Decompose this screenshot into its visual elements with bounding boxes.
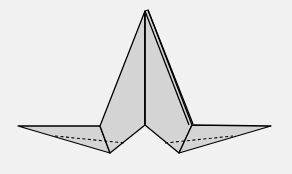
diagram-canvas — [0, 0, 292, 174]
origami-diagram — [0, 0, 292, 174]
